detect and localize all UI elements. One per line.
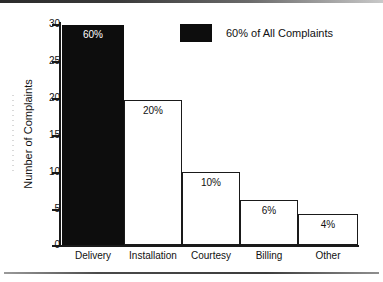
x-axis-label-delivery: Delivery (62, 250, 124, 261)
legend-swatch-icon (180, 24, 212, 42)
bar-chart: Number of Complaints 30 25 20 15 10 5 0 … (0, 0, 383, 282)
legend: 60% of All Complaints (180, 24, 333, 42)
y-axis-tick-label-10: 10 (14, 167, 60, 177)
bar-installation[interactable] (124, 100, 182, 245)
y-axis-tick-label-30: 30 (14, 19, 60, 29)
data-label-courtesy: 10% (182, 177, 240, 188)
x-axis-label-courtesy: Courtesy (181, 250, 241, 261)
y-axis-tick-label-0: 0 (14, 240, 60, 250)
chart-page: Number of Complaints 30 25 20 15 10 5 0 … (0, 0, 383, 282)
y-axis-tick-label-5: 5 (14, 204, 60, 214)
x-axis-label-other: Other (298, 250, 358, 261)
data-label-billing: 6% (240, 205, 298, 216)
legend-label: 60% of All Complaints (226, 27, 333, 39)
x-axis-line (59, 245, 359, 247)
y-axis-tick-label-25: 25 (14, 56, 60, 66)
x-axis-label-billing: Billing (239, 250, 299, 261)
data-label-installation: 20% (124, 105, 182, 116)
y-axis-tick-label-15: 15 (14, 130, 60, 140)
data-label-other: 4% (298, 219, 358, 230)
bar-delivery[interactable] (62, 25, 124, 245)
x-axis-label-installation: Installation (122, 250, 184, 261)
y-axis-tick-label-20: 20 (14, 93, 60, 103)
data-label-delivery: 60% (62, 29, 124, 40)
